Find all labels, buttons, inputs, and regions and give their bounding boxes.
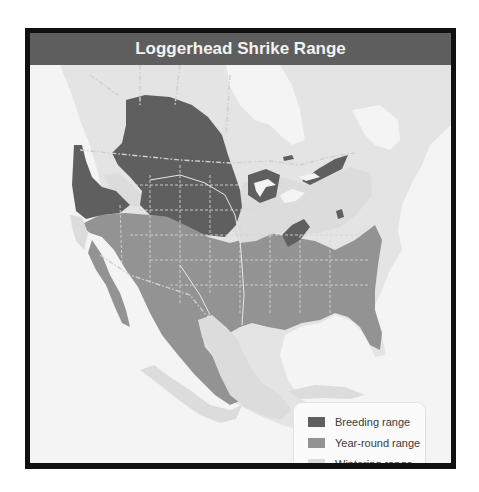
range-map: Breeding range Year-round range Winterin… [30,65,451,463]
breeding-swatch [308,417,325,427]
cuba [288,385,365,399]
legend-item-year-round: Year-round range [308,432,425,453]
map-title: Loggerhead Shrike Range [30,33,451,65]
year-round-swatch [308,438,325,448]
legend-label-wintering: Wintering range [335,458,413,464]
legend-label-breeding: Breeding range [335,416,410,428]
map-legend: Breeding range Year-round range Winterin… [293,402,426,463]
map-frame: Loggerhead Shrike Range [25,28,456,469]
legend-label-year-round: Year-round range [335,437,420,449]
legend-item-breeding: Breeding range [308,411,425,432]
legend-item-wintering: Wintering range [308,453,425,463]
wintering-range-west [70,215,88,250]
wintering-swatch [308,459,325,464]
